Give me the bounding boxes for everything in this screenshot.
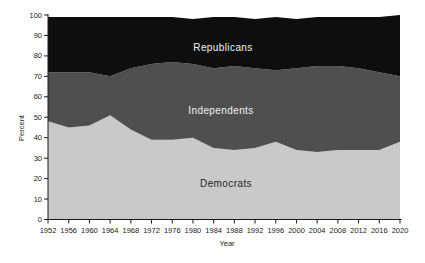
x-tick-label: 2004	[309, 226, 326, 235]
x-tick-label: 1952	[40, 226, 57, 235]
y-tick-label: 80	[34, 51, 42, 60]
x-tick-label: 1988	[226, 226, 243, 235]
y-tick-label: 70	[34, 72, 42, 81]
y-axis-title: Percent	[17, 115, 26, 141]
x-tick-label: 1964	[102, 226, 119, 235]
y-tick-label: 20	[34, 174, 42, 183]
x-axis-title: Year	[219, 239, 234, 248]
y-tick-label: 90	[34, 31, 42, 40]
y-tick-label: 30	[34, 154, 42, 163]
chart-canvas: 0102030405060708090100195219561960196419…	[0, 0, 425, 263]
x-tick-label: 1960	[81, 226, 98, 235]
x-tick-label: 1992	[247, 226, 264, 235]
x-tick-label: 1984	[205, 226, 222, 235]
x-tick-label: 2012	[350, 226, 367, 235]
y-tick-label: 0	[38, 215, 42, 224]
x-tick-label: 1976	[164, 226, 181, 235]
x-tick-label: 1968	[122, 226, 139, 235]
x-tick-label: 2016	[371, 226, 388, 235]
y-tick-label: 10	[34, 195, 42, 204]
y-tick-label: 60	[34, 92, 42, 101]
x-tick-label: 1980	[185, 226, 202, 235]
x-tick-label: 1996	[267, 226, 284, 235]
x-tick-label: 2008	[330, 226, 347, 235]
x-tick-label: 2020	[392, 226, 409, 235]
y-tick-label: 50	[34, 113, 42, 122]
y-tick-label: 40	[34, 133, 42, 142]
x-tick-label: 2000	[288, 226, 305, 235]
x-tick-label: 1956	[60, 226, 77, 235]
x-tick-label: 1972	[143, 226, 160, 235]
y-tick-label: 100	[29, 11, 42, 20]
party-identification-stacked-area-chart: 0102030405060708090100195219561960196419…	[0, 0, 425, 263]
